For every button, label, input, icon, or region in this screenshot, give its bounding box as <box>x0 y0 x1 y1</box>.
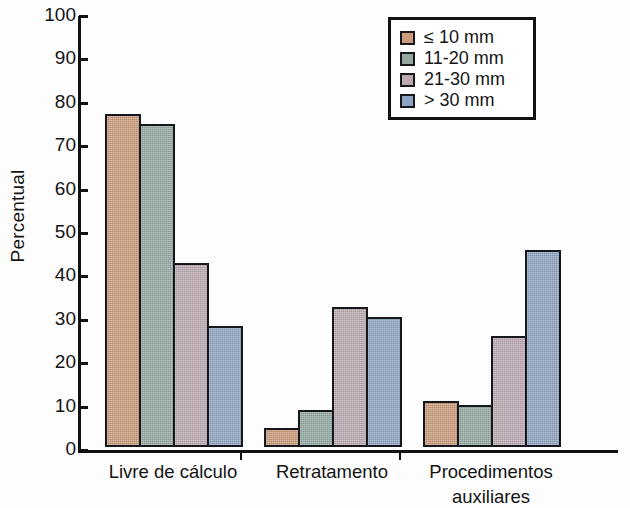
y-axis-tick-label: 100 <box>44 4 76 26</box>
y-axis-tick-label: 20 <box>55 351 76 373</box>
bar <box>139 124 175 447</box>
legend: ≤ 10 mm11-20 mm21-30 mm> 30 mm <box>388 17 536 120</box>
bar <box>264 428 300 447</box>
legend-item[interactable]: 21-30 mm <box>400 69 525 90</box>
y-axis-tick-label: 10 <box>55 395 76 417</box>
y-axis-tick-mark <box>79 58 88 61</box>
y-axis-tick-label: 30 <box>55 308 76 330</box>
y-axis-tick-mark <box>79 145 88 148</box>
x-axis-category-label: Retratamento <box>242 459 422 484</box>
y-axis-tick-mark <box>79 362 88 365</box>
legend-item-label: ≤ 10 mm <box>424 28 494 47</box>
x-axis-category-label: Livre de cálculo <box>83 459 263 484</box>
y-axis-tick-label: 0 <box>65 438 76 460</box>
y-axis-tick-mark <box>79 102 88 105</box>
legend-item[interactable]: > 30 mm <box>400 90 525 111</box>
bar <box>332 307 368 447</box>
bar <box>457 405 493 447</box>
plot-area: 1009080706050403020100 <box>78 16 618 450</box>
y-axis-tick-mark <box>79 275 88 278</box>
x-axis-line <box>78 450 618 453</box>
legend-swatch-icon <box>400 94 415 108</box>
y-axis-tick-mark <box>79 406 88 409</box>
bar <box>366 317 402 447</box>
legend-item[interactable]: 11-20 mm <box>400 48 525 69</box>
legend-item-label: 11-20 mm <box>424 49 504 68</box>
y-axis-tick-label: 40 <box>55 264 76 286</box>
legend-swatch-icon <box>400 52 415 66</box>
bar-chart: Percentual 1009080706050403020100 Livre … <box>0 0 630 508</box>
y-axis-tick-label: 90 <box>55 47 76 69</box>
y-axis-tick-label: 70 <box>55 134 76 156</box>
legend-item[interactable]: ≤ 10 mm <box>400 27 525 48</box>
x-axis-category-label: Procedimentos auxiliares <box>401 459 581 508</box>
y-axis-tick-mark <box>79 319 88 322</box>
y-axis-tick-mark <box>79 189 88 192</box>
y-axis-tick-label: 60 <box>55 178 76 200</box>
bar <box>491 336 527 447</box>
y-axis-label: Percentual <box>7 136 29 296</box>
y-axis-tick-mark <box>79 449 88 452</box>
bar <box>423 401 459 447</box>
legend-swatch-icon <box>400 73 415 87</box>
legend-item-label: > 30 mm <box>424 91 495 110</box>
bar <box>105 114 141 447</box>
legend-swatch-icon <box>400 31 415 45</box>
bar <box>173 263 209 447</box>
legend-item-label: 21-30 mm <box>424 70 505 89</box>
bar <box>525 250 561 447</box>
y-axis-tick-label: 50 <box>55 221 76 243</box>
y-axis-tick-mark <box>79 232 88 235</box>
bar <box>207 326 243 447</box>
y-axis-tick-mark <box>79 15 88 18</box>
y-axis-tick-label: 80 <box>55 91 76 113</box>
bar <box>298 410 334 447</box>
